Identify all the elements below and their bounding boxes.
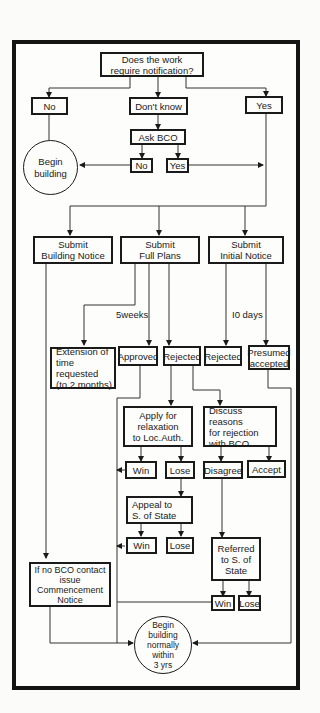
rejected-in-text: Rejected <box>204 351 242 362</box>
answer-no-text: No <box>43 101 55 112</box>
apply-relaxation-text: Apply for relaxation to Loc.Auth. <box>133 410 184 443</box>
relax-win-box: Win <box>125 461 157 479</box>
rejected-in-box: Rejected <box>204 346 242 366</box>
bco-yes-text: Yes <box>170 160 186 171</box>
approved-text: Approved <box>118 351 159 362</box>
commencement-notice-text: If no BCO contact issue Commencement Not… <box>34 565 105 605</box>
relax-lose-box: Lose <box>165 461 195 479</box>
begin-building-circle: Begin building <box>23 140 78 195</box>
presumed-accepted-box: Presumed accepted <box>248 345 290 370</box>
apply-relaxation-box: Apply for relaxation to Loc.Auth. <box>123 406 193 447</box>
bco-no-text: No <box>135 160 147 171</box>
discuss-reasons-box: Discuss reasons for rejection with BCO <box>203 406 277 447</box>
referred-state-text: Referred to S. of State <box>218 543 255 576</box>
bco-no-box: No <box>130 158 153 173</box>
submit-building-notice-text: Submit Building Notice <box>41 239 104 261</box>
appeal-win-box: Win <box>126 537 157 554</box>
discuss-reasons-text: Discuss reasons for rejection with BCO <box>209 405 273 449</box>
referred-win-text: Win <box>215 598 231 609</box>
commencement-notice-box: If no BCO contact issue Commencement Not… <box>29 562 111 607</box>
appeal-win-text: Win <box>133 540 149 551</box>
begin-building-text: Begin building <box>34 156 67 180</box>
accept-text: Accept <box>252 464 281 475</box>
disagree-box: Disagree <box>203 461 243 479</box>
referred-win-box: Win <box>211 595 235 611</box>
referred-lose-text: Lose <box>239 598 260 609</box>
accept-box: Accept <box>247 460 286 478</box>
extension-text: Extension of time requested (to 2 months… <box>56 346 112 390</box>
submit-building-notice-box: Submit Building Notice <box>33 236 113 264</box>
begin-normally-text: Begin building normally within 3 yrs <box>147 620 179 670</box>
ask-bco-text: Ask BCO <box>138 132 177 143</box>
approved-box: Approved <box>118 346 158 366</box>
referred-lose-box: Lose <box>238 595 261 611</box>
disagree-text: Disagree <box>204 465 242 476</box>
answer-yes-text: Yes <box>256 100 272 111</box>
extension-box: Extension of time requested (to 2 months… <box>50 347 116 389</box>
begin-normally-circle: Begin building normally within 3 yrs <box>134 616 192 674</box>
appeal-lose-box: Lose <box>166 537 194 554</box>
rejected-fp-box: Rejected <box>163 346 201 366</box>
ask-bco-box: Ask BCO <box>130 129 186 145</box>
label-5weeks: 5weeks <box>116 309 148 320</box>
submit-full-plans-text: Submit Full Plans <box>139 239 181 261</box>
submit-full-plans-box: Submit Full Plans <box>120 236 200 264</box>
rejected-fp-text: Rejected <box>163 351 201 362</box>
answer-dont-know-box: Don't know <box>129 97 188 115</box>
label-10days: I0 days <box>232 309 263 320</box>
answer-dont-know-text: Don't know <box>135 101 182 112</box>
submit-initial-notice-text: Submit Initial Notice <box>220 239 272 261</box>
bco-yes-box: Yes <box>166 158 189 173</box>
submit-initial-notice-box: Submit Initial Notice <box>208 236 284 264</box>
relax-lose-text: Lose <box>170 465 191 476</box>
relax-win-text: Win <box>133 465 149 476</box>
question-text: Does the work require notification? <box>111 54 194 76</box>
appeal-state-box: Appeal to S. of State <box>126 496 193 524</box>
appeal-state-text: Appeal to S. of State <box>132 499 176 521</box>
answer-yes-box: Yes <box>245 96 283 114</box>
referred-state-box: Referred to S. of State <box>211 537 261 581</box>
appeal-lose-text: Lose <box>170 540 191 551</box>
presumed-accepted-text: Presumed accepted <box>247 347 290 369</box>
question-box: Does the work require notification? <box>100 52 204 77</box>
answer-no-box: No <box>31 97 68 115</box>
